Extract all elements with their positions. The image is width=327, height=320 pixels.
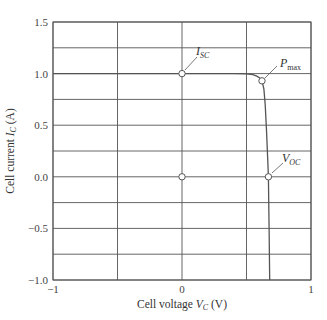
y-axis-label: Cell current IC (A) [4,108,18,194]
point-marker [179,174,185,180]
y-tick: −0.5 [28,222,48,234]
x-tick-labels: −1 0 1 [47,283,314,295]
y-tick: 1.5 [34,16,48,28]
x-tick: 0 [179,283,185,295]
pmax-label: Pmax [279,56,301,72]
y-tick-labels: 1.5 1.0 0.5 0.0 −0.5 −1.0 [28,16,48,286]
y-tick: −1.0 [28,274,48,286]
x-axis-label: Cell voltage VC (V) [137,298,227,312]
x-tick: −1 [47,283,59,295]
isc-label: ISC [195,44,210,60]
isc-leader [185,57,197,70]
x-tick: 1 [308,283,314,295]
voc-label: VOC [282,151,301,167]
point-marker [259,78,265,84]
y-tick: 0.0 [34,171,48,183]
y-tick: 1.0 [34,68,48,80]
pmax-leader [265,66,277,78]
iv-chart: ISC Pmax VOC 1.5 1.0 0.5 0.0 −0.5 −1.0 −… [0,0,327,320]
point-marker [179,70,185,76]
grid-lines [53,22,311,280]
y-tick: 0.5 [34,119,48,131]
point-marker [265,174,271,180]
